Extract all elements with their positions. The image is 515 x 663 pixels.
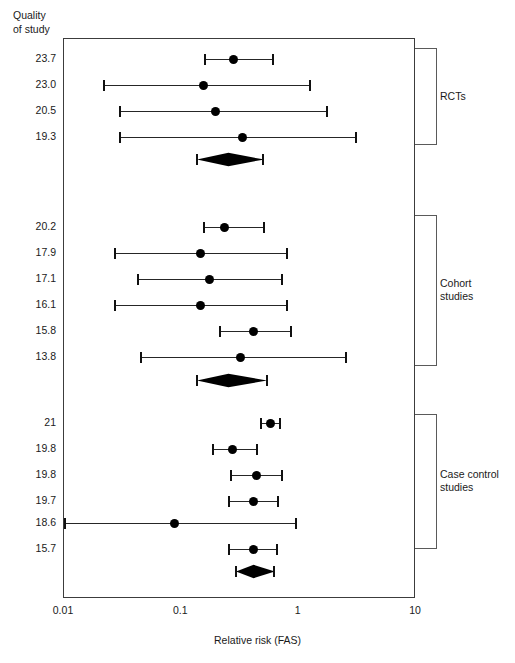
ci-upper-cap	[263, 222, 265, 233]
ci-lower-cap	[103, 80, 105, 91]
confidence-interval-line	[120, 111, 327, 112]
ci-lower-cap	[114, 248, 116, 259]
summary-ci-upper-cap	[266, 375, 268, 386]
summary-ci-lower-cap	[196, 375, 198, 386]
ci-lower-cap	[219, 326, 221, 337]
summary-diamond	[197, 152, 264, 167]
point-estimate-marker	[229, 55, 238, 64]
point-estimate-marker	[211, 107, 220, 116]
study-quality-label: 16.1	[10, 299, 56, 310]
ci-lower-cap	[228, 544, 230, 555]
ci-lower-cap	[212, 444, 214, 455]
ci-lower-cap	[228, 496, 230, 507]
point-estimate-marker	[199, 81, 208, 90]
ci-upper-cap	[309, 80, 311, 91]
ci-upper-cap	[277, 496, 279, 507]
point-estimate-marker	[196, 249, 205, 258]
study-quality-label: 23.7	[10, 53, 56, 64]
ci-lower-cap	[137, 274, 139, 285]
study-quality-label: 17.9	[10, 247, 56, 258]
study-quality-label: 15.8	[10, 325, 56, 336]
ci-upper-cap	[279, 418, 281, 429]
confidence-interval-line	[205, 59, 272, 60]
group-label: Cohort studies	[440, 277, 473, 303]
group-bracket	[415, 414, 437, 549]
point-estimate-marker	[220, 223, 229, 232]
ci-lower-cap	[260, 418, 262, 429]
group-bracket	[415, 48, 437, 145]
ci-lower-cap	[230, 470, 232, 481]
point-estimate-marker	[238, 133, 247, 142]
x-axis-title: Relative risk (FAS)	[0, 634, 515, 646]
ci-lower-cap	[119, 132, 121, 143]
ci-lower-cap	[114, 300, 116, 311]
study-quality-label: 18.6	[10, 517, 56, 528]
summary-ci-lower-cap	[235, 566, 237, 577]
ci-upper-cap	[286, 248, 288, 259]
group-label: Case control studies	[440, 468, 499, 494]
summary-diamond	[197, 373, 268, 388]
point-estimate-marker	[249, 545, 258, 554]
study-quality-label: 23.0	[10, 79, 56, 90]
ci-upper-cap	[281, 274, 283, 285]
confidence-interval-line	[64, 523, 296, 524]
ci-upper-cap	[326, 106, 328, 117]
point-estimate-marker	[266, 419, 275, 428]
plot-area	[63, 38, 415, 598]
study-quality-label: 20.5	[10, 105, 56, 116]
point-estimate-marker	[249, 497, 258, 506]
summary-ci-upper-cap	[273, 566, 275, 577]
ci-lower-cap	[64, 518, 66, 529]
ci-upper-cap	[355, 132, 357, 143]
study-quality-label: 19.7	[10, 495, 56, 506]
ci-lower-cap	[140, 352, 142, 363]
ci-upper-cap	[286, 300, 288, 311]
study-quality-label: 19.8	[10, 469, 56, 480]
x-axis-tick-label: 1	[295, 604, 301, 616]
ci-lower-cap	[204, 54, 206, 65]
summary-ci-upper-cap	[262, 154, 264, 165]
ci-upper-cap	[345, 352, 347, 363]
study-quality-label: 13.8	[10, 351, 56, 362]
point-estimate-marker	[228, 445, 237, 454]
group-bracket	[415, 215, 437, 366]
study-quality-label: 19.3	[10, 131, 56, 142]
x-axis-tick-label: 0.01	[53, 604, 73, 616]
study-quality-label: 20.2	[10, 221, 56, 232]
summary-ci-lower-cap	[196, 154, 198, 165]
summary-diamond	[236, 564, 275, 579]
ci-upper-cap	[290, 326, 292, 337]
ci-lower-cap	[203, 222, 205, 233]
point-estimate-marker	[196, 301, 205, 310]
forest-plot-figure: Quality of study 23.723.020.519.320.217.…	[0, 0, 515, 663]
study-quality-label: 15.7	[10, 543, 56, 554]
ci-upper-cap	[281, 470, 283, 481]
study-quality-label: 21	[10, 417, 56, 428]
ci-lower-cap	[119, 106, 121, 117]
point-estimate-marker	[236, 353, 245, 362]
x-axis-tick-label: 10	[409, 604, 421, 616]
point-estimate-marker	[252, 471, 261, 480]
ci-upper-cap	[256, 444, 258, 455]
study-quality-label: 19.8	[10, 443, 56, 454]
point-estimate-marker	[170, 519, 179, 528]
group-label: RCTs	[440, 90, 466, 103]
x-axis-tick-label: 0.1	[173, 604, 188, 616]
confidence-interval-line	[204, 227, 265, 228]
point-estimate-marker	[205, 275, 214, 284]
study-quality-label: 17.1	[10, 273, 56, 284]
ci-upper-cap	[276, 544, 278, 555]
point-estimate-marker	[249, 327, 258, 336]
ci-upper-cap	[295, 518, 297, 529]
ci-upper-cap	[272, 54, 274, 65]
row-labels-column: 23.723.020.519.320.217.917.116.115.813.8…	[8, 0, 56, 663]
